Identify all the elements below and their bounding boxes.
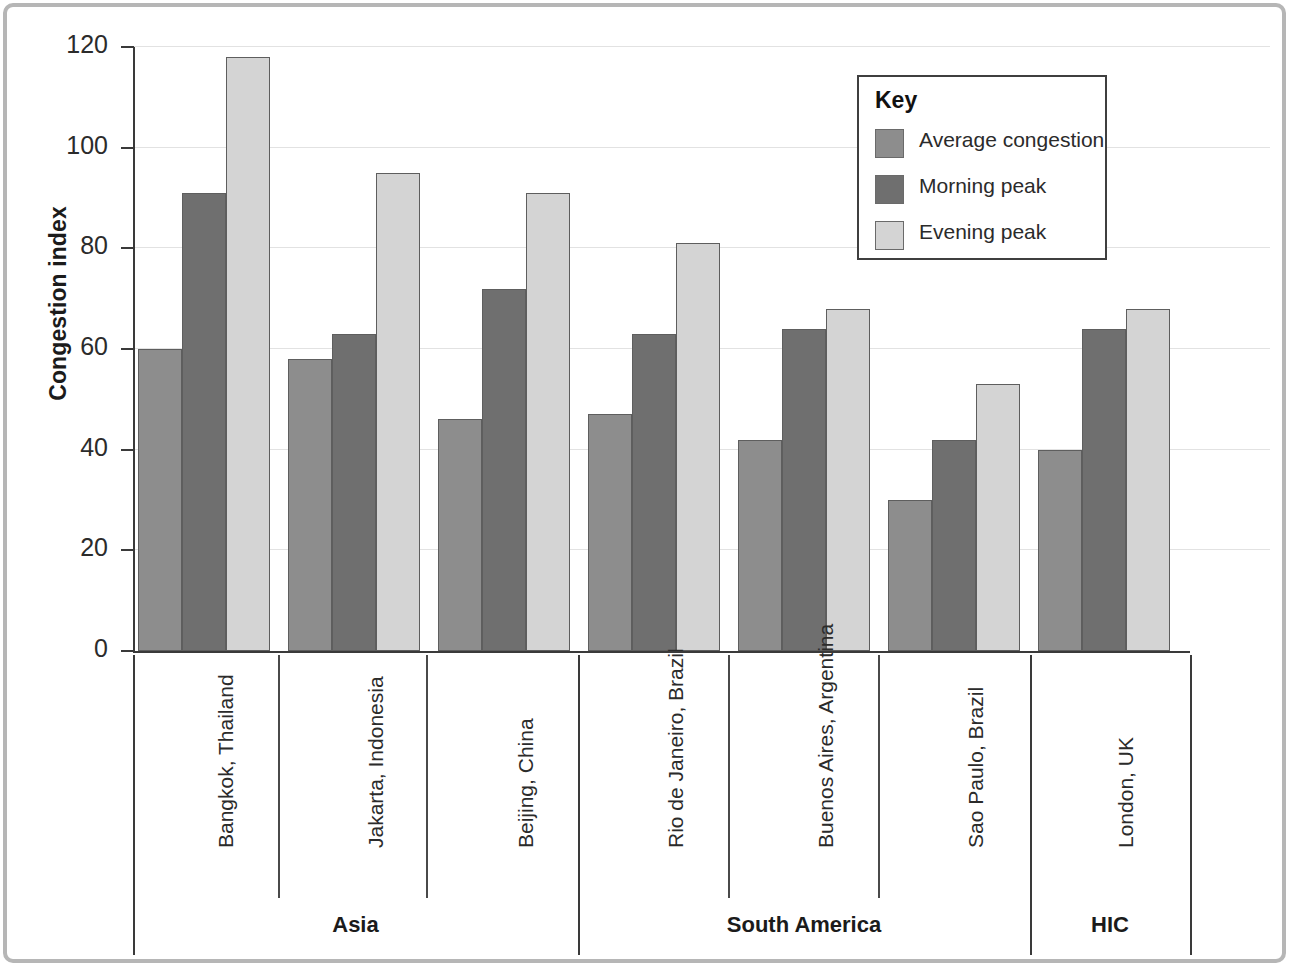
grouped-bar-chart: Congestion index 020406080100120Bangkok,… <box>0 0 1295 973</box>
bar <box>288 359 332 651</box>
x-axis-city-label: Bangkok, Thailand <box>214 588 238 848</box>
city-separator <box>278 655 280 898</box>
region-label: South America <box>578 912 1030 938</box>
legend-label: Average congestion <box>919 128 1104 152</box>
legend-title: Key <box>875 87 917 114</box>
x-axis-city-label: Jakarta, Indonesia <box>364 588 388 848</box>
y-axis-title: Congestion index <box>45 184 72 424</box>
y-tick-label: 60 <box>38 332 108 361</box>
y-tick-label: 0 <box>38 634 108 663</box>
bar <box>588 414 632 651</box>
city-separator <box>878 655 880 898</box>
region-label: HIC <box>1030 912 1190 938</box>
region-separator <box>1190 655 1192 955</box>
x-axis-city-label: Rio de Janeiro, Brazil <box>664 588 688 848</box>
legend-swatch-icon <box>875 175 904 204</box>
bar <box>738 440 782 651</box>
legend-swatch-icon <box>875 129 904 158</box>
chart-page: Congestion index 020406080100120Bangkok,… <box>0 0 1295 973</box>
bar <box>438 419 482 651</box>
x-axis-city-label: London, UK <box>1114 588 1138 848</box>
y-tick-label: 100 <box>38 131 108 160</box>
legend-label: Evening peak <box>919 220 1046 244</box>
bar <box>138 349 182 651</box>
legend-box: Key Average congestionMorning peakEvenin… <box>857 75 1107 260</box>
y-tick-label: 120 <box>38 30 108 59</box>
bar <box>376 173 420 651</box>
gridline <box>121 46 1270 47</box>
y-tick-label: 20 <box>38 533 108 562</box>
region-separator <box>578 655 580 955</box>
region-separator <box>133 655 135 955</box>
bar <box>182 193 226 651</box>
region-label: Asia <box>133 912 578 938</box>
bar <box>226 57 270 651</box>
legend-swatch-icon <box>875 221 904 250</box>
legend-label: Morning peak <box>919 174 1046 198</box>
x-axis-line <box>133 651 1190 653</box>
city-separator <box>426 655 428 898</box>
bar <box>526 193 570 651</box>
bar <box>1038 450 1082 651</box>
y-tick-label: 40 <box>38 433 108 462</box>
bar <box>888 500 932 651</box>
y-axis-line <box>133 47 135 653</box>
city-separator <box>728 655 730 898</box>
x-axis-city-label: Beijing, China <box>514 588 538 848</box>
y-tick-label: 80 <box>38 231 108 260</box>
region-separator <box>1030 655 1032 955</box>
x-axis-city-label: Buenos Aires, Argentina <box>814 588 838 848</box>
x-axis-city-label: Sao Paulo, Brazil <box>964 588 988 848</box>
